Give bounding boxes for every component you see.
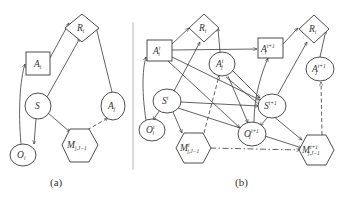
edge-oi-to-ai	[20, 64, 25, 144]
node-s-t: St	[153, 89, 181, 113]
node-r-i-t: Ri	[189, 14, 219, 42]
node-o-i: Oi	[10, 144, 36, 166]
node-a-i-t: Ati	[147, 40, 172, 61]
node-s-t1: St+1	[258, 94, 286, 118]
node-r-i-t1: Ri	[299, 15, 329, 43]
edge-st-to-st1	[180, 102, 259, 106]
edge-mt-to-mt1	[210, 148, 300, 150]
node-a-j-t-label: Atj	[215, 58, 224, 70]
edge-ait-to-rit	[172, 28, 189, 44]
panel-a-edges	[20, 23, 112, 144]
node-s: S	[25, 93, 51, 119]
node-r-i: Ri	[65, 14, 99, 42]
node-a-i-t-label: Ati	[152, 45, 161, 57]
edge-ait-to-ait1	[172, 49, 257, 50]
node-a-j: Aj	[101, 92, 125, 120]
edge-ajt-to-rit	[218, 28, 220, 52]
influence-diagram: Ri Ai Aj S Oi Mj,J−1 (a)	[0, 0, 350, 197]
node-o-i-t: Oti	[139, 119, 165, 141]
edge-mt-to-ajt	[204, 76, 219, 133]
node-a-j-t: Atj	[209, 52, 235, 76]
edge-st-to-oit	[153, 110, 160, 120]
node-m: Mj,J−1	[62, 129, 98, 162]
node-a-j-t1: At+1j	[306, 57, 334, 81]
panel-a: Ri Ai Aj S Oi Mj,J−1 (a)	[10, 14, 125, 189]
caption-b: (b)	[235, 176, 248, 189]
panel-b: Ri Ati Atj St Oti Mtj,J−1	[139, 14, 334, 189]
edge-m-to-aj	[87, 118, 108, 130]
node-s-label: S	[35, 101, 40, 111]
node-m-t1: Mt+1j,J−1	[299, 135, 334, 165]
node-o-i-t-label: Oti	[146, 124, 155, 136]
edge-s-to-oi	[34, 119, 36, 144]
edge-s-to-ri	[47, 38, 80, 97]
edge-st-to-mt	[173, 112, 182, 133]
node-a-i-t1: At+1i	[258, 38, 283, 58]
edge-mt1-to-ajt1	[321, 82, 322, 135]
caption-a: (a)	[50, 176, 63, 189]
node-m-t: Mtj,J−1	[176, 133, 211, 163]
edge-oit-to-ait	[143, 57, 146, 120]
edge-ait1-to-rit1	[283, 28, 298, 44]
node-a-i: Ai	[26, 52, 50, 75]
edge-aj-to-ri	[96, 27, 112, 92]
edge-s-to-m	[48, 113, 70, 132]
node-m-t1-label: Mt+1j,J−1	[301, 144, 320, 156]
node-o-i-t1: Ot+1i	[238, 122, 266, 146]
